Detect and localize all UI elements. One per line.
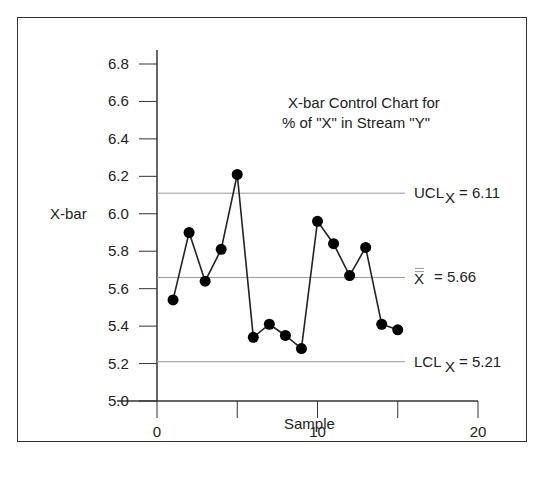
reference-label-value: = 5.66 xyxy=(434,268,476,285)
data-point-marker xyxy=(200,276,211,287)
y-tick-label: 5.0 xyxy=(108,392,129,409)
data-point-marker xyxy=(360,242,371,253)
reference-label-value: = 5.21 xyxy=(459,353,501,370)
y-tick-label: 5.4 xyxy=(108,317,129,334)
data-point-marker xyxy=(280,330,291,341)
reference-label-sub: X xyxy=(445,358,455,375)
y-tick-label: 6.8 xyxy=(108,55,129,72)
x-tick-label: 0 xyxy=(153,423,161,440)
reference-label: LCLX= 5.21 xyxy=(414,353,501,375)
data-point-marker xyxy=(344,270,355,281)
data-point-marker xyxy=(248,332,259,343)
data-point-marker xyxy=(376,319,387,330)
y-tick-label: 5.2 xyxy=(108,355,129,372)
chart-title-line-1: X-bar Control Chart for xyxy=(288,94,440,111)
data-point-marker xyxy=(264,319,275,330)
data-point-marker xyxy=(328,238,339,249)
x-tick-label: 20 xyxy=(470,423,487,440)
y-tick-label: 6.4 xyxy=(108,130,129,147)
x-axis-label: Sample xyxy=(284,415,335,432)
y-tick-label: 6.6 xyxy=(108,92,129,109)
reference-label-value: = 6.11 xyxy=(459,184,500,201)
data-point-marker xyxy=(296,343,307,354)
control-chart: 5.05.25.45.65.86.06.26.46.66.801020 UCLX… xyxy=(0,0,551,486)
y-axis-label: X-bar xyxy=(50,205,87,222)
reference-label-main: X xyxy=(414,270,424,287)
reference-label-main: UCL xyxy=(414,184,444,201)
y-tick-label: 5.6 xyxy=(108,280,129,297)
reference-label: X= 5.66 xyxy=(414,268,476,287)
chart-title-line-2: % of "X" in Stream "Y" xyxy=(282,114,430,131)
reference-label-main: LCL xyxy=(414,353,442,370)
data-series xyxy=(168,169,404,354)
y-tick-label: 6.2 xyxy=(108,167,129,184)
data-point-marker xyxy=(216,244,227,255)
data-point-marker xyxy=(312,216,323,227)
data-point-marker xyxy=(184,227,195,238)
data-point-marker xyxy=(392,324,403,335)
data-point-marker xyxy=(168,294,179,305)
y-tick-label: 6.0 xyxy=(108,205,129,222)
reference-label-sub: X xyxy=(445,189,455,206)
y-tick-label: 5.8 xyxy=(108,242,129,259)
data-point-marker xyxy=(232,169,243,180)
series-line xyxy=(173,174,398,348)
reference-label: UCLX= 6.11 xyxy=(414,184,500,206)
